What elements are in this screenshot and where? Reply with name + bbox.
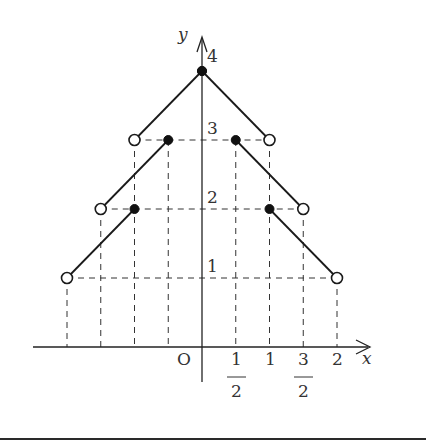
open-endpoint-icon — [62, 273, 73, 284]
open-endpoint-icon — [129, 135, 140, 146]
open-endpoint-icon — [332, 273, 343, 284]
axes — [33, 37, 370, 382]
x-tick-label-1: 1 — [265, 349, 276, 369]
x-tick-label-one-half: 1 2 — [227, 349, 246, 401]
fraction-numerator: 1 — [231, 349, 242, 369]
y-tick-label-3: 3 — [207, 118, 218, 138]
filled-endpoint-icon — [130, 205, 139, 214]
filled-endpoint-icon — [164, 136, 173, 145]
filled-endpoint-icon — [198, 67, 207, 76]
open-endpoint-icon — [95, 204, 106, 215]
x-tick-label-three-halves: 3 2 — [294, 349, 313, 401]
origin-label: O — [177, 349, 191, 369]
filled-endpoint-icon — [265, 205, 274, 214]
open-endpoint-icon — [298, 204, 309, 215]
y-tick-label-1: 1 — [207, 256, 218, 276]
x-axis-label: x — [362, 348, 372, 368]
y-tick-label-4: 4 — [207, 46, 218, 66]
y-tick-label-2: 2 — [207, 187, 218, 207]
bottom-rule — [0, 438, 426, 440]
fraction-denominator: 2 — [298, 381, 309, 401]
x-tick-label-2: 2 — [332, 349, 343, 369]
filled-endpoint-icon — [231, 136, 240, 145]
segment-3 — [135, 71, 203, 140]
fraction-numerator: 3 — [298, 349, 309, 369]
fraction-denominator: 2 — [231, 381, 242, 401]
function-graph: y x O 4 3 2 1 1 2 1 3 2 2 — [0, 0, 426, 443]
open-endpoint-icon — [264, 135, 275, 146]
y-axis-label: y — [177, 24, 188, 44]
